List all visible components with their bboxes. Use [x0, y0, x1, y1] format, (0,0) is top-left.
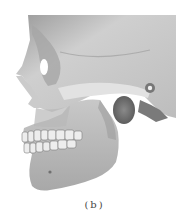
- figure: (b): [0, 0, 189, 215]
- figure-caption: (b): [0, 199, 189, 210]
- skull-render-image: [0, 0, 189, 195]
